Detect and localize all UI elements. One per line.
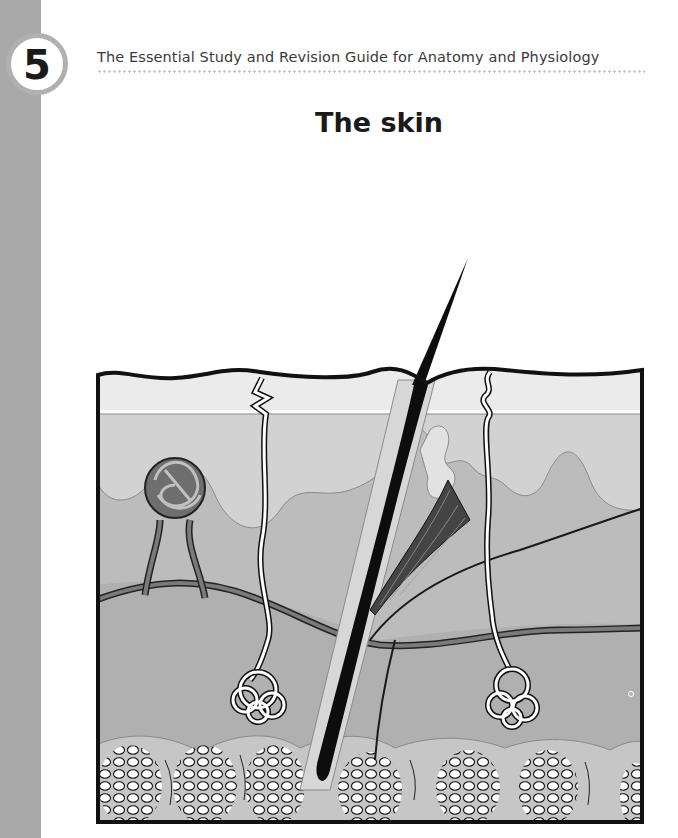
sweat-gland-right — [483, 372, 537, 727]
blood-vessel — [96, 583, 644, 646]
chapter-number: 5 — [23, 45, 51, 85]
epidermis — [96, 360, 644, 830]
chapter-badge: 5 — [6, 33, 68, 95]
arrector-pili-muscle — [370, 480, 470, 615]
figure-frame — [98, 369, 642, 822]
hair-follicle — [300, 380, 435, 790]
nerve-fibre — [370, 508, 644, 640]
adipose-tissue — [98, 745, 652, 828]
page-title: The skin — [0, 107, 678, 138]
skin-layers — [96, 360, 652, 834]
hair-shaft — [316, 380, 428, 781]
running-head: The Essential Study and Revision Guide f… — [97, 49, 599, 65]
dermis — [96, 414, 644, 834]
dotted-rule — [97, 70, 645, 73]
sebaceous-gland — [420, 426, 455, 498]
hair-above-skin — [412, 258, 468, 385]
capillary-loop — [145, 458, 205, 598]
sweat-gland-left — [233, 378, 284, 722]
